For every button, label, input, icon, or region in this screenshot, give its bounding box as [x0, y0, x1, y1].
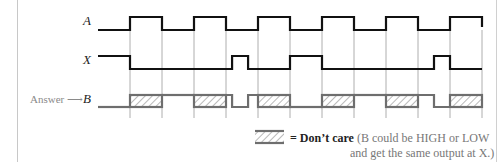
dont-care-box — [386, 95, 418, 107]
legend-dont-care: = Don’t care — [290, 131, 354, 145]
waveform-x — [98, 56, 482, 69]
signal-label-b: B — [83, 91, 91, 107]
legend-line-1: = Don’t care (B could be HIGH or LOW — [290, 131, 489, 146]
waveform-b-segment — [418, 95, 450, 107]
signal-label-x: X — [83, 52, 91, 68]
dont-care-box — [258, 95, 290, 107]
signal-label-a: A — [83, 13, 91, 29]
legend-hatch-icon — [255, 131, 284, 143]
answer-text: Answer — [30, 93, 64, 105]
dont-care-box — [450, 95, 482, 107]
waveform-a — [98, 17, 482, 30]
answer-label: Answer ⟶ — [30, 93, 83, 106]
dont-care-box — [322, 95, 354, 107]
dont-care-box — [194, 95, 226, 107]
arrow-right-icon: ⟶ — [67, 93, 83, 105]
dont-care-box — [130, 95, 162, 107]
legend-note-1: (B could be HIGH or LOW — [357, 131, 489, 145]
legend-note-2: and get the same output at X.) — [350, 146, 494, 161]
waveform-b-segment — [226, 95, 258, 107]
